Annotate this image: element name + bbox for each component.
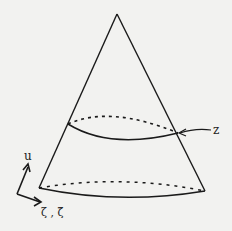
base-section-back: [39, 182, 205, 191]
u-axis: [17, 167, 28, 194]
cone-right-edge: [117, 14, 205, 191]
label-z: z: [213, 123, 219, 137]
cone-left-edge: [39, 14, 117, 188]
label-u: u: [24, 149, 32, 163]
middle-section-front: [68, 124, 178, 140]
cone-diagram: z u ζ , ζ̃: [0, 0, 232, 231]
middle-section-back: [68, 116, 178, 133]
label-zeta: ζ , ζ̃: [41, 206, 63, 219]
base-section-front: [39, 188, 205, 197]
